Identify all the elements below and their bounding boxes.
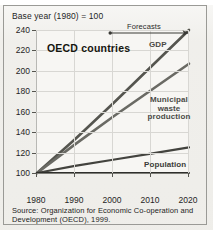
x-tick-mark — [74, 173, 75, 177]
y-tick-mark — [32, 132, 36, 133]
chart-figure: Base year (1980) = 100 10012014016018020… — [0, 0, 213, 230]
y-tick-mark — [32, 50, 36, 51]
x-tick-label: 2020 — [173, 195, 203, 205]
y-tick-mark — [32, 91, 36, 92]
x-tick-mark — [36, 173, 37, 177]
y-tick-label: 140 — [6, 127, 30, 137]
series-label-municipal-waste: Municipal waste production — [146, 96, 192, 122]
source-note: Source: Organization for Economic Co-ope… — [12, 206, 202, 224]
y-tick-label: 120 — [6, 148, 30, 158]
y-tick-label: 180 — [6, 86, 30, 96]
base-year-note: Base year (1980) = 100 — [12, 11, 103, 21]
y-tick-label: 220 — [6, 45, 30, 55]
y-tick-label: 240 — [6, 25, 30, 35]
y-tick-mark — [32, 153, 36, 154]
x-tick-mark — [150, 173, 151, 177]
y-tick-label: 200 — [6, 66, 30, 76]
y-tick-label: 100 — [6, 168, 30, 178]
x-tick-label: 2000 — [97, 195, 127, 205]
y-tick-label: 160 — [6, 107, 30, 117]
chart-title: OECD countries — [47, 42, 130, 54]
y-tick-mark — [32, 112, 36, 113]
x-tick-mark — [188, 173, 189, 177]
x-tick-label: 2010 — [135, 195, 165, 205]
x-tick-label: 1980 — [21, 195, 51, 205]
y-tick-mark — [32, 71, 36, 72]
forecasts-arrow-icon — [108, 30, 192, 40]
series-label-population: Population — [144, 160, 186, 169]
y-tick-mark — [32, 30, 36, 31]
x-tick-mark — [112, 173, 113, 177]
series-label-gdp: GDP — [149, 40, 167, 49]
waste-label-line-3: production — [148, 112, 191, 121]
x-tick-label: 1990 — [59, 195, 89, 205]
